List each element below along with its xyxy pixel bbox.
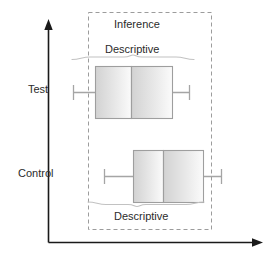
- y-axis: [44, 19, 52, 243]
- box-upper-half-control: [164, 151, 204, 203]
- box-lower-half-control: [134, 151, 164, 203]
- box-lower-half-test: [96, 67, 132, 119]
- boxplot-control: [104, 151, 222, 203]
- descriptive-label-top: Descriptive: [105, 44, 159, 55]
- box-upper-half-test: [132, 67, 173, 119]
- descriptive-label-bottom: Descriptive: [114, 211, 168, 222]
- category-label-test: Test: [28, 84, 48, 95]
- category-label-control: Control: [18, 168, 53, 179]
- x-axis: [49, 238, 264, 247]
- boxplot-figure: Test Control Inference Descriptive Descr…: [0, 0, 266, 254]
- boxplot-test: [73, 67, 190, 119]
- descriptive-brace-top: [72, 55, 194, 60]
- inference-label: Inference: [114, 19, 160, 30]
